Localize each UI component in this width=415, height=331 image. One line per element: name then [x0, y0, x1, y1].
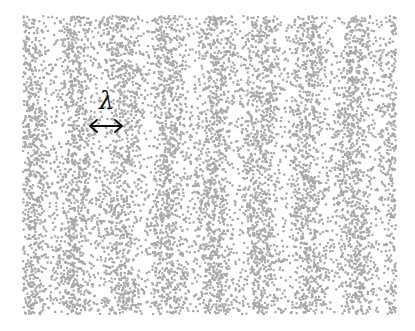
- scatter-dots: [22, 15, 397, 315]
- stripe-scatter-plot: [0, 0, 415, 331]
- double-arrow-icon: [88, 118, 124, 134]
- wavelength-label: λ: [99, 89, 114, 113]
